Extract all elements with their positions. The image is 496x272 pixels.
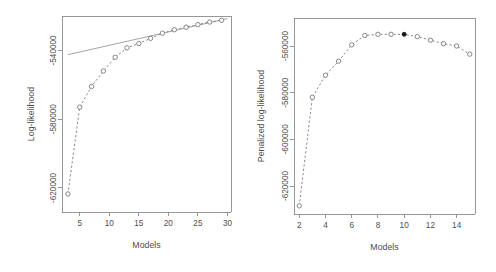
data-point: [148, 36, 152, 40]
x-tick-label: 14: [452, 221, 462, 230]
y-tick-label: -580000: [49, 104, 58, 134]
data-point: [389, 32, 393, 36]
x-tick-label: 10: [400, 221, 410, 230]
data-point: [297, 204, 301, 208]
x-tick-label: 6: [349, 221, 354, 230]
x-tick-label: 5: [77, 219, 82, 228]
x-tick-label: 30: [223, 219, 233, 228]
data-line: [68, 20, 222, 194]
x-tick-label: 12: [426, 221, 436, 230]
y-tick-label: -580000: [281, 77, 290, 107]
data-point: [125, 46, 129, 50]
chart-panel-right: 2468101214-560000-580000-600000-620000Mo…: [248, 0, 496, 272]
data-point: [78, 105, 82, 109]
data-point: [89, 84, 93, 88]
penalized-log-likelihood-plot: 2468101214-560000-580000-600000-620000Mo…: [248, 0, 496, 272]
data-point: [137, 41, 141, 45]
y-tick-label: -620000: [49, 172, 58, 202]
data-point: [184, 25, 188, 29]
data-point: [363, 33, 367, 37]
x-tick-label: 15: [134, 219, 144, 228]
data-point: [172, 28, 176, 32]
data-point: [219, 18, 223, 22]
x-tick-label: 8: [376, 221, 381, 230]
y-tick-label: -560000: [281, 31, 290, 61]
data-point: [160, 31, 164, 35]
data-point: [336, 59, 340, 63]
figure-container: 51015202530-540000-580000-620000ModelsLo…: [0, 0, 496, 272]
data-point: [454, 44, 458, 48]
log-likelihood-plot: 51015202530-540000-580000-620000ModelsLo…: [0, 0, 248, 272]
x-axis-title: Models: [132, 240, 161, 250]
reference-line: [68, 19, 228, 55]
y-tick-label: -600000: [281, 124, 290, 154]
selected-data-point: [402, 32, 406, 36]
plot-box: [294, 18, 475, 214]
data-point: [208, 20, 212, 24]
x-tick-label: 25: [193, 219, 203, 228]
data-point: [441, 41, 445, 45]
y-tick-label: -540000: [49, 35, 58, 65]
plot-box: [62, 16, 231, 212]
x-tick-label: 4: [323, 221, 328, 230]
data-point: [350, 43, 354, 47]
data-point: [196, 22, 200, 26]
data-point: [66, 192, 70, 196]
x-tick-label: 20: [164, 219, 174, 228]
data-point: [310, 95, 314, 99]
data-point: [376, 32, 380, 36]
chart-panel-left: 51015202530-540000-580000-620000ModelsLo…: [0, 0, 248, 272]
data-point: [113, 55, 117, 59]
data-point: [468, 52, 472, 56]
data-point: [415, 34, 419, 38]
data-point: [428, 38, 432, 42]
data-point: [323, 73, 327, 77]
y-axis-title: Penalized log-likelihood: [256, 70, 266, 163]
data-line: [299, 34, 470, 206]
y-axis-title: Log-likelihood: [26, 87, 36, 141]
data-point: [101, 69, 105, 73]
x-axis-title: Models: [370, 242, 399, 252]
y-tick-label: -620000: [281, 171, 290, 201]
x-tick-label: 10: [105, 219, 115, 228]
x-tick-label: 2: [297, 221, 302, 230]
